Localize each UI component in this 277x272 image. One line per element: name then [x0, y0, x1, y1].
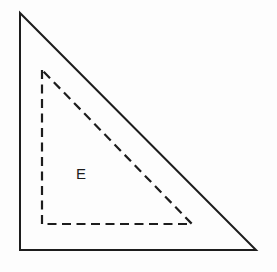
figure-canvas: Right triangle with inscribed dashed rig… [0, 0, 277, 272]
solid-right-triangle [20, 13, 256, 250]
region-label-e: E [76, 165, 86, 182]
geometry-diagram: Right triangle with inscribed dashed rig… [0, 0, 277, 272]
dashed-right-triangle [42, 70, 192, 224]
